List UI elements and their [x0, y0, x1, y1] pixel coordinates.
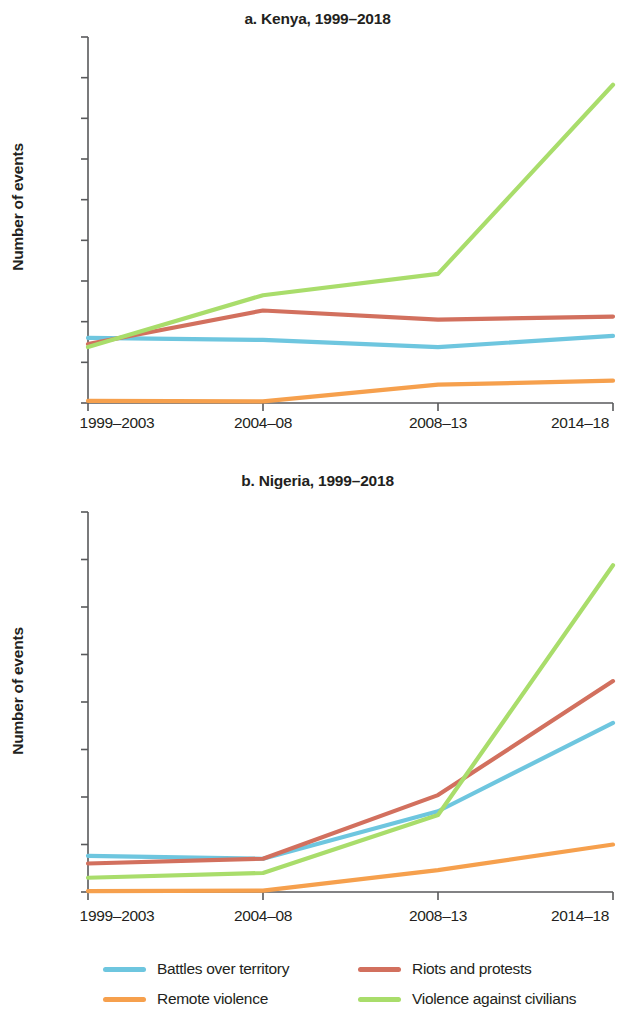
legend-item-battles: Battles over territory [103, 954, 289, 984]
legend-swatch-remote [103, 997, 146, 1002]
legend-item-civilians: Violence against civilians [358, 984, 576, 1014]
legend-swatch-battles [103, 967, 146, 972]
plot-area-nigeria [88, 500, 618, 912]
legend-label-remote: Remote violence [157, 990, 268, 1008]
legend-row: Battles over territory Riots and protest… [0, 954, 635, 984]
line-chart-svg-nigeria [88, 500, 618, 912]
legend-label-civilians: Violence against civilians [412, 990, 576, 1008]
legend-item-riots: Riots and protests [358, 954, 532, 984]
plot-area-kenya [88, 25, 618, 420]
legend-swatch-civilians [358, 997, 401, 1002]
legend-label-battles: Battles over territory [157, 960, 289, 978]
figure-root: a. Kenya, 1999–2018 Number of events 020… [0, 0, 635, 1016]
chart-panel-kenya: a. Kenya, 1999–2018 Number of events 020… [0, 0, 635, 450]
legend-item-remote: Remote violence [103, 984, 268, 1014]
chart-legend: Battles over territory Riots and protest… [0, 952, 635, 1016]
legend-swatch-riots [358, 967, 401, 972]
chart-panel-nigeria: b. Nigeria, 1999–2018 Number of events 0… [0, 462, 635, 952]
line-chart-svg-kenya [88, 25, 618, 420]
legend-row: Remote violence Violence against civilia… [0, 984, 635, 1014]
legend-label-riots: Riots and protests [412, 960, 532, 978]
